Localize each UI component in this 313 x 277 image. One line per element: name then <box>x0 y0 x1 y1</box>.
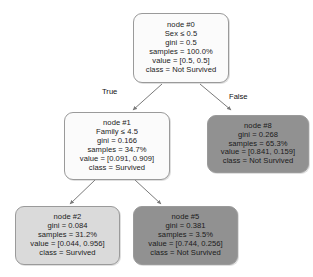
edge-node1-to-node2 <box>70 180 95 204</box>
node-8-class: class = Not Survived <box>223 157 293 166</box>
edge-root-to-node1 <box>133 84 162 110</box>
edge-root-to-node8 <box>200 84 231 110</box>
tree-node-0[interactable]: node #0 Sex ≤ 0.5 gini = 0.5 samples = 1… <box>133 13 229 83</box>
tree-node-5[interactable]: node #5 gini = 0.381 samples = 3.5% valu… <box>133 206 238 265</box>
edge-node1-to-node5 <box>135 180 161 204</box>
tree-node-2[interactable]: node #2 gini = 0.084 samples = 31.2% val… <box>15 206 120 265</box>
edge-label-true: True <box>102 87 117 96</box>
tree-node-1[interactable]: node #1 Family ≤ 4.5 gini = 0.166 sample… <box>64 112 170 180</box>
node-0-class: class = Not Survived <box>146 66 216 75</box>
node-1-class: class = Survived <box>89 164 145 173</box>
edge-label-false: False <box>229 92 248 101</box>
decision-tree-diagram: node #0 Sex ≤ 0.5 gini = 0.5 samples = 1… <box>0 0 313 277</box>
node-2-class: class = Survived <box>39 249 95 258</box>
node-5-class: class = Not Survived <box>150 249 220 258</box>
tree-node-8[interactable]: node #8 gini = 0.268 samples = 65.3% val… <box>207 115 309 173</box>
